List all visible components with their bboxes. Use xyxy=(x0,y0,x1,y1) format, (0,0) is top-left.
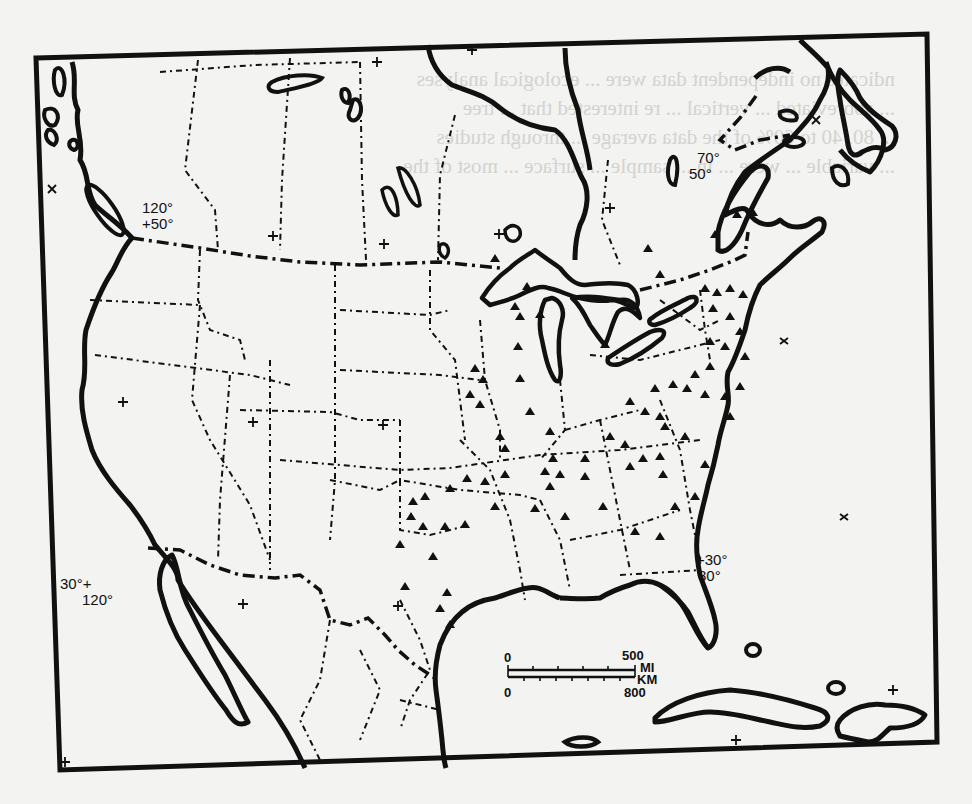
scanned-page: ndicates no independent data were ... ec… xyxy=(0,0,972,804)
coord-longitude: 120° xyxy=(60,592,113,608)
coord-latitude: +50° xyxy=(142,216,173,232)
scale-bottom-end: 800 xyxy=(624,686,646,699)
scale-bar xyxy=(508,665,635,681)
north-america-map xyxy=(0,0,972,804)
scale-top-start: 0 xyxy=(504,651,511,664)
coord-label-se: +30° 80° xyxy=(696,552,727,584)
manitoba-lakes xyxy=(382,168,520,258)
bahamas-island xyxy=(746,644,760,656)
coord-label-sw: 30°+ 120° xyxy=(60,576,113,608)
pacific-coastline xyxy=(72,62,305,768)
anticosti-island xyxy=(780,111,797,121)
coord-longitude: 80° xyxy=(696,568,727,584)
coord-latitude: 50° xyxy=(689,166,720,182)
cuba xyxy=(655,690,828,727)
lake-ontario xyxy=(649,297,696,325)
coord-longitude: 120° xyxy=(142,200,173,216)
coord-latitude: 30°+ xyxy=(60,576,113,592)
florida xyxy=(660,585,708,648)
coord-longitude: 70° xyxy=(695,150,720,166)
canada-us-border xyxy=(132,96,790,290)
coord-label-ne: 70° 50° xyxy=(695,150,720,182)
scale-bottom-start: 0 xyxy=(504,686,511,699)
nova-scotia xyxy=(832,166,848,185)
coord-latitude: +30° xyxy=(696,552,727,568)
caribbean-island xyxy=(828,682,844,694)
hispaniola xyxy=(837,704,925,742)
lake-michigan xyxy=(540,298,563,381)
baja-peninsula xyxy=(160,555,249,724)
vancouver-island xyxy=(80,180,129,239)
lake-erie xyxy=(608,330,664,365)
jamaica xyxy=(565,738,598,747)
coord-label-nw: 120° +50° xyxy=(142,200,173,232)
